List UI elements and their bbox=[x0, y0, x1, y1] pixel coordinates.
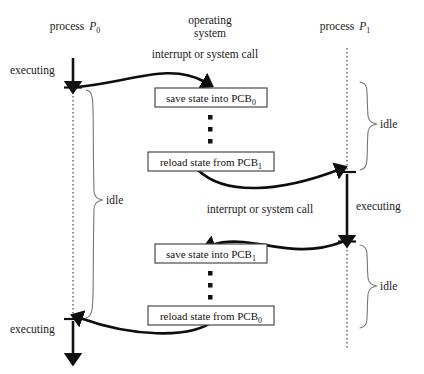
header-process-p1: processP1 bbox=[320, 20, 371, 35]
arrow-p0-to-os bbox=[77, 73, 205, 87]
context-switch-diagram: processP0 operating system processP1 exe… bbox=[0, 0, 424, 374]
ellipsis-dot-upper-2 bbox=[208, 127, 213, 132]
header-operating-system-line2: system bbox=[194, 27, 226, 40]
ellipsis-dot-lower-2 bbox=[208, 283, 213, 288]
header-process-p0: processP0 bbox=[50, 20, 101, 35]
p1-idle-brace-top bbox=[360, 82, 377, 170]
label-interrupt-top: interrupt or system call bbox=[152, 48, 258, 61]
label-executing-p0-top: executing bbox=[10, 64, 55, 77]
label-idle-p0: idle bbox=[106, 194, 123, 206]
header-operating-system-line1: operating bbox=[188, 14, 232, 27]
ellipsis-dot-lower-1 bbox=[208, 271, 213, 276]
ellipsis-dot-lower-3 bbox=[208, 295, 213, 300]
ellipsis-dot-upper-3 bbox=[208, 139, 213, 144]
label-executing-p1: executing bbox=[356, 200, 401, 213]
label-idle-p1-top: idle bbox=[380, 118, 397, 130]
label-interrupt-mid: interrupt or system call bbox=[207, 203, 313, 216]
ellipsis-dot-upper-1 bbox=[208, 115, 213, 120]
diagram-canvas: processP0 operating system processP1 exe… bbox=[0, 0, 424, 374]
label-idle-p1-bottom: idle bbox=[380, 280, 397, 292]
p1-idle-brace-bottom bbox=[360, 245, 377, 328]
label-executing-p0-bottom: executing bbox=[10, 323, 55, 336]
arrow-os-to-p1 bbox=[198, 170, 338, 188]
p0-idle-brace bbox=[86, 90, 103, 318]
